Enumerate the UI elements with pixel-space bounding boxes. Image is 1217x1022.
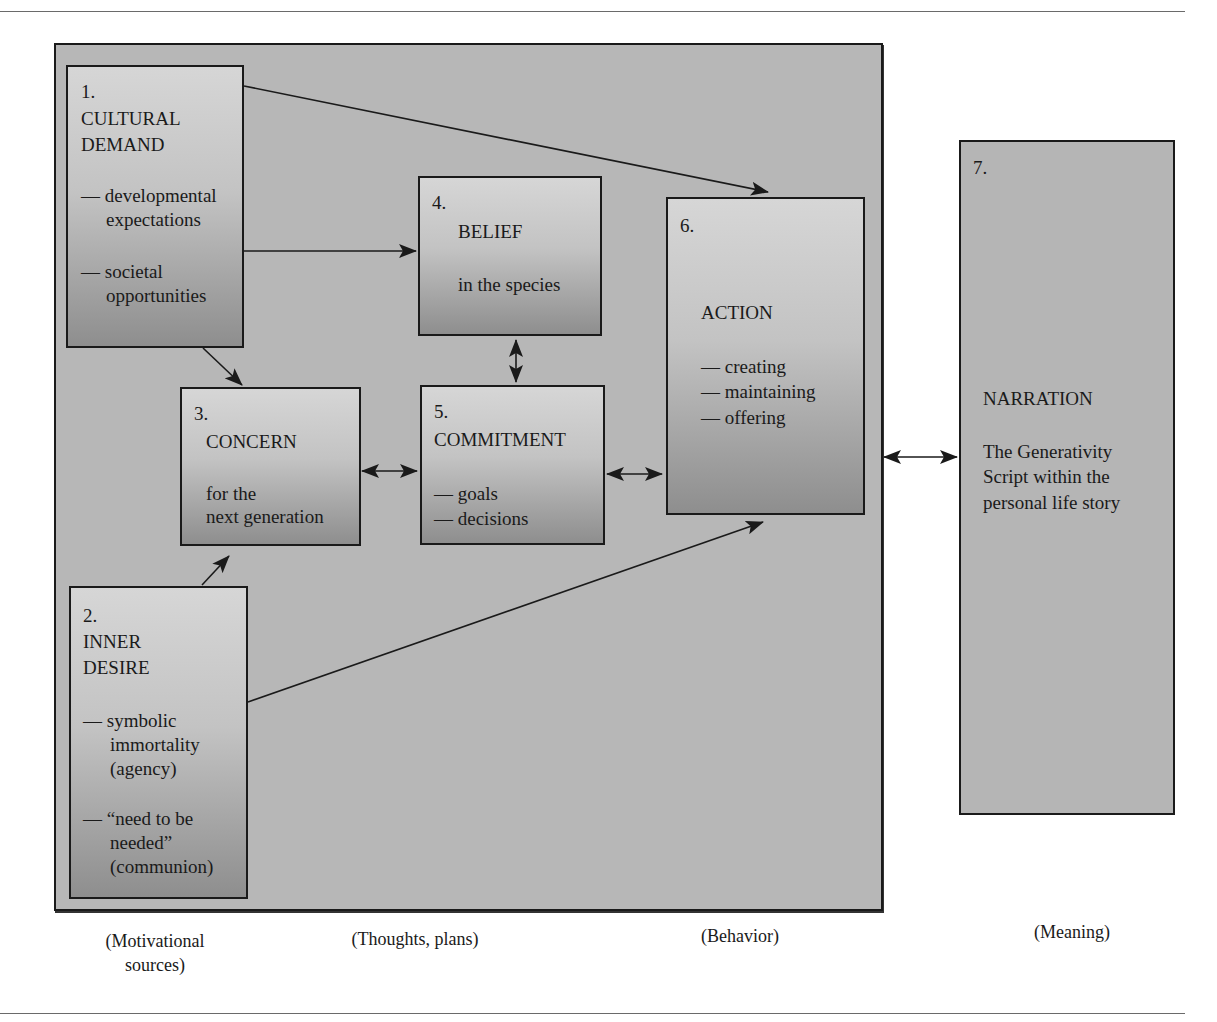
box-title: CONCERN xyxy=(206,429,297,454)
caption-line: (Motivational xyxy=(80,929,230,953)
box-title: CULTURAL xyxy=(81,106,181,131)
box-title: BELIEF xyxy=(458,219,522,244)
box-item: immortality xyxy=(110,732,200,757)
box-number: 3. xyxy=(194,401,208,426)
box-number: 4. xyxy=(432,190,446,215)
box-inner-desire: 2. INNER DESIRE — symbolic immortality (… xyxy=(69,586,248,899)
box-subtitle: The Generativity xyxy=(983,439,1112,464)
box-item: — societal xyxy=(81,259,163,284)
box-item: needed” xyxy=(110,830,172,855)
box-number: 2. xyxy=(83,603,97,628)
box-item: (agency) xyxy=(110,756,176,781)
box-item: — offering xyxy=(701,405,786,430)
box-item: opportunities xyxy=(106,283,206,308)
box-narration: 7. NARRATION The Generativity Script wit… xyxy=(959,140,1175,815)
box-item: — creating xyxy=(701,354,786,379)
box-title: ACTION xyxy=(701,300,773,325)
box-subtitle: next generation xyxy=(206,504,324,529)
box-item: — maintaining xyxy=(701,379,816,404)
box-item: (communion) xyxy=(110,854,213,879)
box-title: DEMAND xyxy=(81,132,164,157)
bottom-rule xyxy=(0,1013,1185,1014)
box-concern: 3. CONCERN for the next generation xyxy=(180,387,361,546)
caption-thoughts-plans: (Thoughts, plans) xyxy=(330,927,500,951)
box-subtitle: Script within the xyxy=(983,464,1110,489)
box-number: 5. xyxy=(434,399,448,424)
box-subtitle: in the species xyxy=(458,272,560,297)
box-action: 6. ACTION — creating — maintaining — off… xyxy=(666,197,865,515)
box-item: expectations xyxy=(106,207,201,232)
box-number: 1. xyxy=(81,79,95,104)
box-title: INNER xyxy=(83,629,141,654)
caption-line: sources) xyxy=(80,953,230,977)
box-item: — “need to be xyxy=(83,806,193,831)
caption-behavior: (Behavior) xyxy=(680,924,800,948)
box-title: DESIRE xyxy=(83,655,150,680)
box-belief: 4. BELIEF in the species xyxy=(418,176,602,336)
box-item: — decisions xyxy=(434,506,528,531)
box-item: — developmental xyxy=(81,183,217,208)
box-number: 6. xyxy=(680,213,694,238)
box-cultural-demand: 1. CULTURAL DEMAND — developmental expec… xyxy=(66,65,244,348)
box-number: 7. xyxy=(973,155,987,180)
caption-meaning: (Meaning) xyxy=(1012,920,1132,944)
caption-motivational-sources: (Motivational sources) xyxy=(80,929,230,977)
top-rule xyxy=(0,11,1185,12)
box-title: COMMITMENT xyxy=(434,427,566,452)
box-item: — symbolic xyxy=(83,708,176,733)
box-subtitle: for the xyxy=(206,481,256,506)
box-title: NARRATION xyxy=(983,386,1093,411)
box-commitment: 5. COMMITMENT — goals — decisions xyxy=(420,385,605,545)
box-item: — goals xyxy=(434,481,498,506)
box-subtitle: personal life story xyxy=(983,490,1120,515)
